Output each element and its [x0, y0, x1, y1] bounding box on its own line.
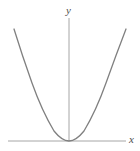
y-axis-label: y [66, 5, 71, 16]
parabola-figure: y x [0, 0, 140, 151]
graph-canvas [0, 0, 140, 151]
parabola-curve [14, 29, 126, 141]
x-axis-label: x [129, 134, 134, 145]
